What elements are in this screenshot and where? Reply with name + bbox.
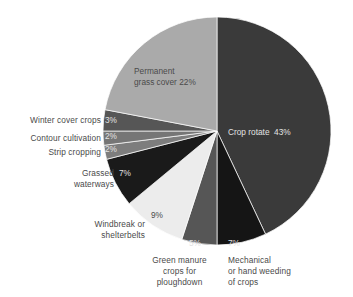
slice-label-mechanical-line1: Mechanical [228, 255, 338, 265]
slice-percent-contour-cultivation: 2% [105, 131, 117, 141]
pie-chart-figure: Crop rotate 43% Permanent grass cover 22… [0, 0, 353, 297]
slice-percent-strip-cropping: 2% [105, 144, 117, 154]
slice-label-crop-rotate: Crop rotate 43% [228, 127, 291, 137]
slice-label-windbreak-line2: shelterbelts [55, 230, 145, 240]
slice-percent-grassed-waterways: 7% [119, 168, 131, 178]
slice-label-permanent-grass-line2: grass cover 22% [134, 77, 196, 87]
slice-label-mechanical-line3: of crops [228, 277, 338, 287]
slice-label-winter-cover-crops: Winter cover crops [8, 115, 101, 125]
slice-label-permanent-grass-line1: Permanent [134, 66, 175, 76]
slice-label-grassed-waterways-line1: Grassed [30, 168, 114, 178]
slice-label-windbreak-line1: Windbreak or [55, 219, 145, 229]
slice-percent-winter-cover-crops: 3% [105, 115, 117, 125]
pie-slices [103, 17, 331, 245]
slice-percent-mechanical: 7% [228, 238, 240, 248]
slice-percent-windbreak: 9% [151, 210, 163, 220]
slice-label-grassed-waterways-line2: waterways [30, 179, 114, 189]
slice-label-green-manure-line3: ploughdown [141, 277, 218, 287]
slice-label-mechanical-line2: or hand weeding [228, 266, 338, 276]
slice-label-green-manure-line1: Green manure [141, 255, 218, 265]
slice-label-strip-cropping: Strip cropping [8, 147, 101, 157]
slice-label-contour-cultivation: Contour cultivation [8, 133, 101, 143]
slice-label-green-manure-line2: crops for [141, 266, 218, 276]
slice-percent-green-manure: 5% [189, 238, 201, 248]
